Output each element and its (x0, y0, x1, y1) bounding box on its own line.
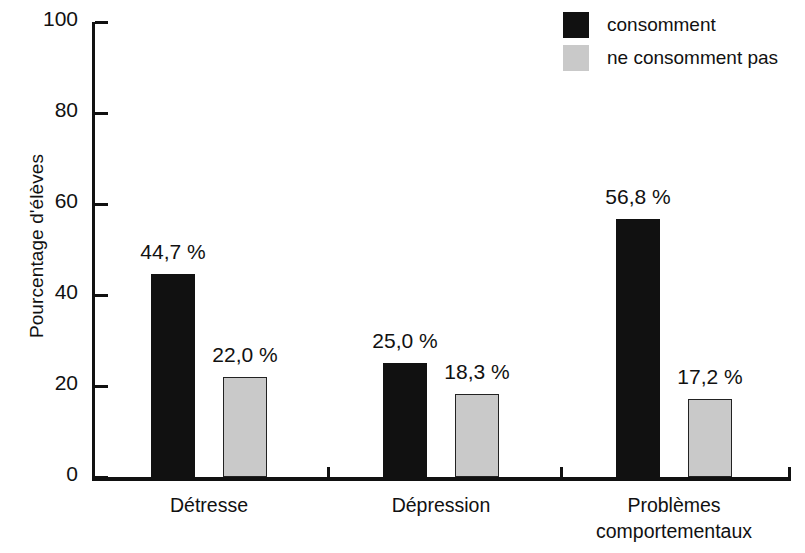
black-square-icon (563, 12, 589, 38)
category-label-0: Détresse (89, 492, 329, 518)
category-label-1: Dépression (321, 492, 561, 518)
bar-chart: Pourcentage d'élèves 020406080100 44,7 %… (0, 0, 805, 553)
bar-value-label: 22,0 % (185, 343, 305, 367)
category-label-line: Problèmes (554, 492, 794, 518)
category-label-line: Dépression (321, 492, 561, 518)
bar-0-2 (616, 219, 660, 477)
category-label-2: Problèmescomportementaux (554, 492, 794, 544)
bar-value-label: 25,0 % (345, 329, 465, 353)
legend: consomment ne consomment pas (563, 8, 778, 74)
bar-0-0 (151, 274, 195, 477)
legend-label: consomment (607, 14, 716, 36)
gray-square-icon (563, 45, 589, 71)
legend-item-consomment: consomment (563, 8, 778, 41)
bar-value-label: 18,3 % (417, 360, 537, 384)
category-label-line: Détresse (89, 492, 329, 518)
bar-value-label: 17,2 % (650, 365, 770, 389)
legend-label: ne consomment pas (607, 47, 778, 69)
bar-1-1 (455, 394, 499, 477)
legend-item-ne-consomment-pas: ne consomment pas (563, 41, 778, 74)
bar-value-label: 44,7 % (113, 240, 233, 264)
bar-1-2 (688, 399, 732, 477)
bar-1-0 (223, 377, 267, 477)
x-axis-line (92, 477, 791, 481)
category-label-line: comportementaux (554, 518, 794, 544)
bar-value-label: 56,8 % (578, 185, 698, 209)
